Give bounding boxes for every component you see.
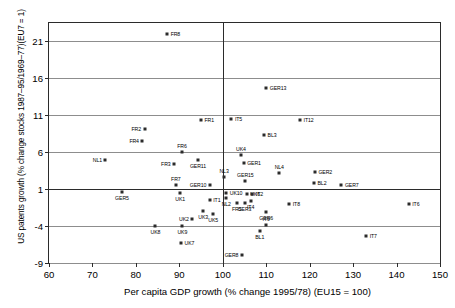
- data-point: [265, 211, 268, 214]
- x-axis-tick: [353, 263, 354, 267]
- data-point: [249, 199, 252, 202]
- data-point: [244, 180, 247, 183]
- y-axis-tick-label: -4: [34, 221, 43, 232]
- data-point: [104, 159, 107, 162]
- data-point: [365, 234, 368, 237]
- data-point-label: IT9: [263, 216, 270, 222]
- data-point: [340, 183, 343, 186]
- data-point: [313, 171, 316, 174]
- reference-line-vertical: [223, 23, 224, 263]
- x-axis-tick-label: 150: [432, 269, 448, 280]
- data-point: [154, 225, 157, 228]
- x-axis-tick-label: 120: [302, 269, 318, 280]
- data-point-label: IT2: [256, 191, 263, 197]
- data-point-label: GER5: [115, 195, 129, 201]
- data-point: [166, 33, 169, 36]
- x-axis-tick: [223, 263, 224, 267]
- x-axis-tick: [136, 263, 137, 267]
- data-point-label: GER2: [318, 169, 332, 175]
- data-point-label: UK9: [177, 229, 187, 235]
- data-point-label: UK4: [236, 146, 246, 152]
- x-axis-tick: [310, 263, 311, 267]
- data-point-label: GER1: [247, 160, 261, 166]
- data-point: [299, 118, 302, 121]
- data-point-label: UK2: [179, 216, 189, 222]
- data-point: [202, 209, 205, 212]
- x-axis-title: Per capita GDP growth (% change 1995/78)…: [45, 286, 450, 297]
- gridline-horizontal: [49, 152, 440, 153]
- data-point: [179, 191, 182, 194]
- data-point-label: UK7: [185, 240, 195, 246]
- data-point-label: IT1: [213, 197, 220, 203]
- data-point-label: GER15: [237, 172, 254, 178]
- data-point: [223, 176, 226, 179]
- data-point: [243, 202, 246, 205]
- data-point: [407, 202, 410, 205]
- gridline-horizontal: [49, 78, 440, 79]
- data-point: [180, 242, 183, 245]
- data-point: [240, 253, 243, 256]
- x-axis-tick: [92, 263, 93, 267]
- data-point: [174, 184, 177, 187]
- data-point: [200, 118, 203, 121]
- x-axis-tick: [266, 263, 267, 267]
- data-point-label: UK3: [198, 214, 208, 220]
- data-point-label: IT7: [370, 233, 377, 239]
- data-point: [313, 181, 316, 184]
- y-axis-tick-label: 1: [38, 184, 43, 195]
- x-axis-tick-label: 80: [131, 269, 142, 280]
- gridline-horizontal: [49, 226, 440, 227]
- y-axis-tick: [45, 115, 49, 116]
- data-point: [197, 158, 200, 161]
- data-point-label: FR3: [161, 161, 171, 167]
- y-axis-tick-label: 6: [38, 147, 43, 158]
- x-axis-tick: [397, 263, 398, 267]
- gridline-horizontal: [49, 189, 440, 190]
- data-point: [208, 199, 211, 202]
- data-point-label: GER10: [190, 182, 207, 188]
- x-axis-tick-label: 100: [215, 269, 231, 280]
- data-point: [230, 118, 233, 121]
- data-point-label: IT5: [235, 116, 242, 122]
- data-point: [181, 225, 184, 228]
- data-point-label: BL3: [268, 132, 277, 138]
- y-axis-tick: [45, 41, 49, 42]
- data-point: [263, 134, 266, 137]
- x-axis-tick-label: 130: [345, 269, 361, 280]
- data-point: [225, 191, 228, 194]
- scatter-chart-figure: US patents growth (% change stocks 1987–…: [0, 0, 455, 308]
- y-axis-tick-label: 16: [32, 73, 43, 84]
- data-point-label: GER11: [190, 163, 206, 169]
- data-point: [191, 218, 194, 221]
- data-point-label: NL2: [222, 201, 231, 207]
- data-point-label: UK10: [230, 190, 243, 196]
- data-point: [265, 86, 268, 89]
- data-point-label: IT6: [412, 201, 419, 207]
- x-axis-tick: [49, 263, 50, 267]
- data-point-label: BL1: [255, 234, 264, 240]
- data-point-label: FR1: [205, 117, 215, 123]
- y-axis-title: US patents growth (% change stocks 1987–…: [17, 2, 26, 252]
- gridline-horizontal: [49, 263, 440, 264]
- y-axis-tick: [45, 189, 49, 190]
- x-axis-tick-label: 140: [389, 269, 405, 280]
- data-point-label: NL3: [219, 168, 228, 174]
- data-point: [265, 223, 268, 226]
- data-point-label: GER8: [225, 252, 239, 258]
- data-point: [212, 212, 215, 215]
- data-point: [141, 140, 144, 143]
- y-axis-tick-label: 11: [33, 110, 43, 121]
- x-axis-tick-label: 90: [174, 269, 185, 280]
- data-point-label: NL4: [275, 164, 284, 170]
- data-point: [288, 202, 291, 205]
- data-point-label: UK1: [175, 196, 185, 202]
- x-axis-tick-label: 60: [44, 269, 55, 280]
- data-point: [278, 171, 281, 174]
- data-point-label: IT8: [293, 201, 300, 207]
- plot-area: 21161161-4-960708090100110120130140150FR…: [48, 22, 441, 264]
- data-point-label: NL1: [93, 157, 102, 163]
- data-point: [235, 202, 238, 205]
- data-point-label: UK8: [151, 229, 161, 235]
- data-point-label: GER13: [270, 85, 287, 91]
- data-point: [225, 197, 228, 200]
